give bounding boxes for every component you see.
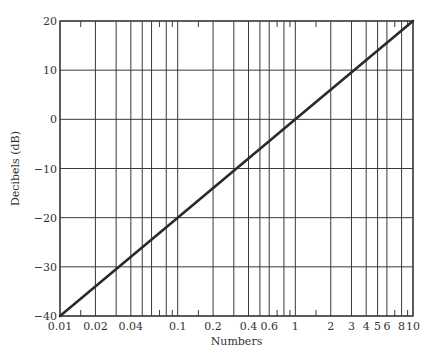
x-tick-label: 0.02 — [83, 320, 108, 333]
x-tick-label: 0.1 — [169, 320, 187, 333]
y-tick-label: 20 — [43, 15, 57, 28]
x-tick-label: 4 — [363, 320, 370, 333]
x-tick-label: 0.4 — [240, 320, 258, 333]
x-tick-label: 3 — [348, 320, 355, 333]
y-tick-label: 0 — [50, 113, 57, 126]
x-tick-labels: 0.010.020.040.10.20.40.6123456810 — [48, 320, 420, 333]
x-tick-label: 5 — [374, 320, 381, 333]
y-tick-labels: 20100−10−20−30−40 — [34, 15, 57, 323]
decibel-conversion-chart: 0.010.020.040.10.20.40.6123456810 20100−… — [0, 0, 436, 363]
x-tick-label: 10 — [406, 320, 420, 333]
y-tick-label: −20 — [34, 212, 57, 225]
x-tick-label: 1 — [292, 320, 299, 333]
x-tick-label: 8 — [398, 320, 405, 333]
y-tick-label: −10 — [34, 163, 57, 176]
x-tick-label: 0.2 — [204, 320, 222, 333]
x-tick-label: 0.04 — [119, 320, 144, 333]
x-tick-label: 6 — [383, 320, 390, 333]
y-axis-title: Decibels (dB) — [9, 131, 22, 206]
y-tick-label: −30 — [34, 261, 57, 274]
x-axis-title: Numbers — [211, 335, 263, 348]
x-tick-label: 0.6 — [260, 320, 278, 333]
y-tick-label: 10 — [43, 64, 57, 77]
x-tick-label: 2 — [327, 320, 334, 333]
y-tick-label: −40 — [34, 310, 57, 323]
